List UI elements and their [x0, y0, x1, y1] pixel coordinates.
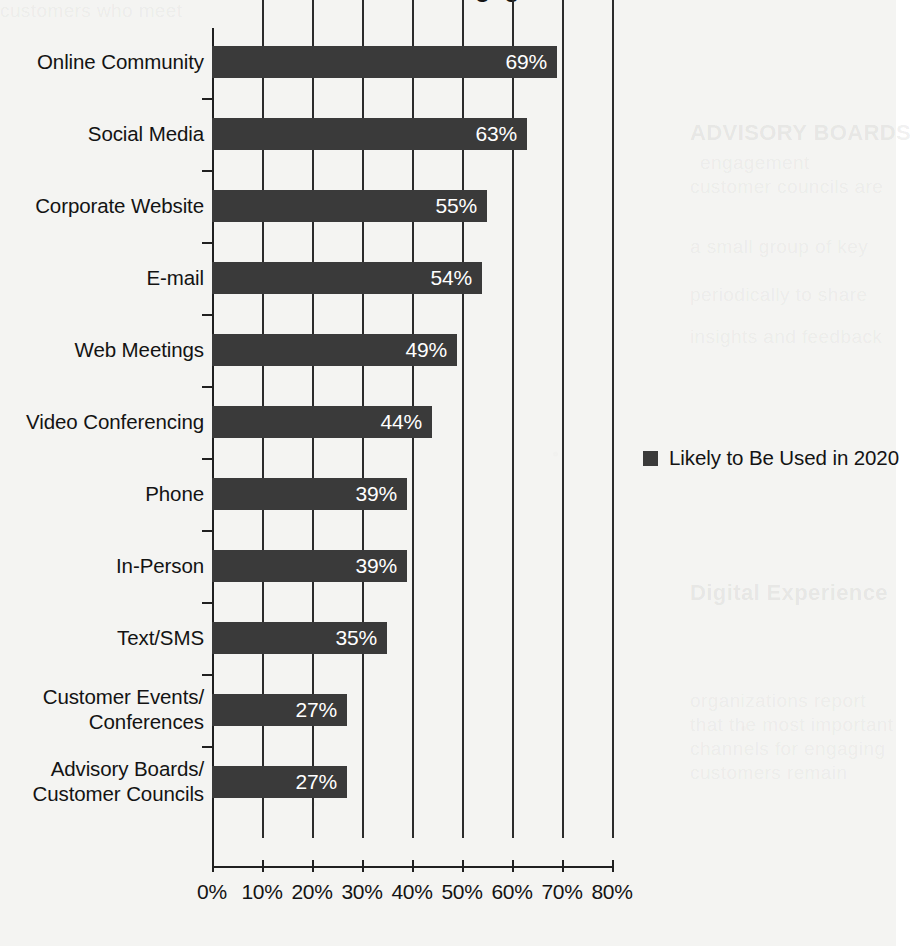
- x-axis-tick: [262, 860, 264, 872]
- category-label: E-mail: [147, 265, 205, 290]
- category-label: Online Community: [37, 49, 204, 74]
- x-axis-tick: [362, 860, 364, 872]
- legend-label: Likely to Be Used in 2020: [669, 446, 899, 470]
- x-axis-tick: [462, 860, 464, 872]
- x-axis-tick: [412, 860, 414, 872]
- bar-value-label: 69%: [499, 46, 547, 78]
- bar-value-label: 63%: [469, 118, 517, 150]
- bar-value-label: 55%: [429, 190, 477, 222]
- gridline: [562, 0, 564, 838]
- y-axis-tick: [202, 242, 213, 244]
- x-axis-tick-label: 80%: [572, 880, 652, 904]
- x-axis-tick: [562, 860, 564, 872]
- y-axis-tick: [202, 458, 213, 460]
- y-axis-tick: [202, 530, 213, 532]
- y-axis-tick: [202, 386, 213, 388]
- category-label: Web Meetings: [75, 337, 204, 362]
- bar-value-label: 44%: [374, 406, 422, 438]
- gridline: [612, 0, 614, 838]
- bar-value-label: 39%: [349, 550, 397, 582]
- category-label: Video Conferencing: [26, 409, 204, 434]
- y-axis-tick: [202, 314, 213, 316]
- category-label: Phone: [145, 481, 204, 506]
- category-label: In-Person: [116, 553, 204, 578]
- bar-value-label: 27%: [289, 766, 337, 798]
- bar-value-label: 39%: [349, 478, 397, 510]
- category-label: Text/SMS: [117, 625, 204, 650]
- category-label: Customer Events/ Conferences: [43, 684, 204, 734]
- y-axis: [212, 28, 214, 866]
- category-label: Corporate Website: [35, 193, 204, 218]
- x-axis-tick: [212, 860, 214, 872]
- x-axis-tick: [612, 860, 614, 872]
- category-label: Advisory Boards/ Customer Councils: [33, 756, 204, 806]
- y-axis-tick: [202, 98, 213, 100]
- bar-value-label: 49%: [399, 334, 447, 366]
- y-axis-tick: [202, 674, 213, 676]
- y-axis-tick: [202, 602, 213, 604]
- x-axis-tick: [512, 860, 514, 872]
- bar-value-label: 35%: [329, 622, 377, 654]
- category-label: Social Media: [88, 121, 204, 146]
- chart-title-fragment: Methods of Engagement: [0, 0, 896, 6]
- y-axis-tick: [202, 746, 213, 748]
- bar-value-label: 54%: [424, 262, 472, 294]
- y-axis-tick: [202, 170, 213, 172]
- chart-legend: Likely to Be Used in 2020: [643, 446, 899, 470]
- bar-value-label: 27%: [289, 694, 337, 726]
- legend-swatch-icon: [643, 451, 658, 466]
- x-axis-tick: [312, 860, 314, 872]
